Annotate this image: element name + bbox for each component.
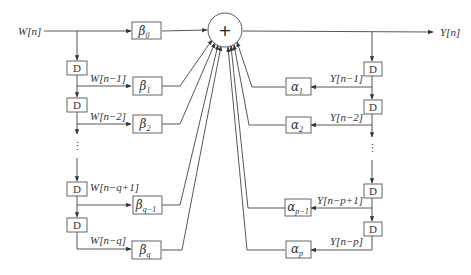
signal-label-w-n-2: W[n−2] — [90, 110, 126, 122]
svg-text:D: D — [369, 101, 377, 113]
input-label: W[n] — [18, 25, 41, 37]
svg-text:D: D — [369, 185, 377, 197]
signal-label-y-n-p-1: Y[n−p+1] — [317, 194, 363, 206]
ellipsis-right: ⋮ — [367, 142, 378, 154]
signal-label-y-n-1: Y[n−1] — [330, 72, 363, 84]
signal-label-y-n-p: Y[n−p] — [330, 235, 363, 247]
summing-node: + — [208, 13, 242, 47]
output-line — [243, 31, 433, 32]
svg-text:D: D — [369, 223, 377, 235]
signal-label-w-n-q: W[n−q] — [90, 234, 126, 246]
signal-label-y-n-2: Y[n−2] — [330, 111, 363, 123]
beta0-to-sum-line — [162, 30, 207, 31]
signal-label-w-n-q-1: W[n−q+1] — [90, 181, 139, 193]
svg-text:D: D — [73, 219, 81, 231]
svg-text:D: D — [73, 62, 81, 74]
output-label: Y[n] — [440, 26, 460, 38]
svg-text:D: D — [73, 99, 81, 111]
svg-text:+: + — [218, 21, 231, 40]
signal-label-w-n-1: W[n−1] — [90, 72, 126, 84]
svg-text:D: D — [73, 183, 81, 195]
ellipsis-left: ⋮ — [72, 140, 83, 152]
arma-block-diagram: + W[n] Y[n] D D D D D D D D ⋮ ⋮ β0 β1 β2 — [0, 0, 471, 275]
svg-text:D: D — [369, 63, 377, 75]
